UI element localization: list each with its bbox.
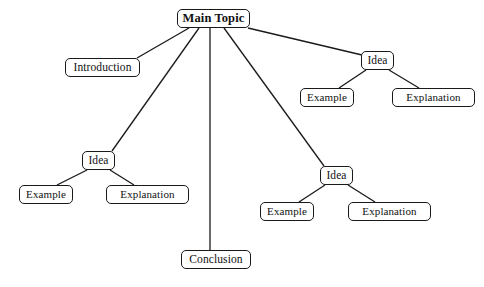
node-introduction-label: Introduction: [73, 62, 131, 74]
edge-idea_right_top-to-example_right_top: [339, 70, 366, 88]
edge-root-to-idea_left: [112, 28, 199, 151]
connector-lines-layer: [0, 0, 484, 287]
node-explanation-left-label: Explanation: [120, 189, 174, 200]
node-explanation-right-top[interactable]: Explanation: [392, 88, 475, 107]
node-idea-right-top-label: Idea: [367, 55, 387, 67]
node-example-right-top[interactable]: Example: [300, 88, 354, 107]
node-idea-right-top[interactable]: Idea: [361, 51, 394, 70]
node-example-right-bottom[interactable]: Example: [260, 202, 314, 221]
mind-map-diagram: Main Topic Introduction Idea Example Exp…: [0, 0, 484, 287]
node-introduction[interactable]: Introduction: [65, 58, 140, 77]
node-conclusion-label: Conclusion: [189, 254, 242, 266]
node-conclusion[interactable]: Conclusion: [181, 250, 251, 269]
node-explanation-right-bottom[interactable]: Explanation: [348, 202, 431, 221]
node-idea-right-bottom[interactable]: Idea: [320, 166, 353, 185]
node-idea-right-bottom-label: Idea: [326, 170, 346, 182]
edge-idea_right_bottom-to-example_right_bottom: [299, 185, 325, 202]
edge-idea_right_top-to-explanation_right_top: [389, 70, 419, 88]
node-example-right-top-label: Example: [307, 92, 347, 103]
node-explanation-left[interactable]: Explanation: [106, 185, 189, 204]
edge-idea_left-to-explanation_left: [110, 170, 134, 185]
node-main-topic[interactable]: Main Topic: [177, 9, 250, 28]
node-main-topic-label: Main Topic: [183, 12, 245, 25]
node-explanation-right-top-label: Explanation: [406, 92, 460, 103]
node-explanation-right-bottom-label: Explanation: [362, 206, 416, 217]
node-example-left-label: Example: [26, 189, 66, 200]
node-example-right-bottom-label: Example: [267, 206, 307, 217]
node-example-left[interactable]: Example: [19, 185, 73, 204]
edge-idea_right_bottom-to-explanation_right_bottom: [348, 185, 375, 202]
edge-idea_left-to-example_left: [57, 170, 87, 185]
node-idea-left-label: Idea: [88, 155, 108, 167]
edge-root-to-idea_right_top: [248, 28, 362, 55]
node-idea-left[interactable]: Idea: [82, 151, 115, 170]
